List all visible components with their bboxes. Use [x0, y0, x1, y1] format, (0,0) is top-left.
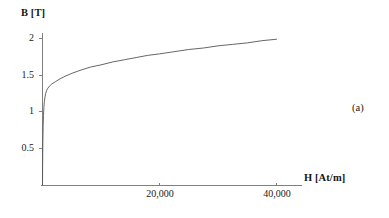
- panel-label: (a): [352, 102, 364, 113]
- y-axis-label: B [T]: [21, 7, 45, 18]
- y-tick-label-1p5: 1.5: [8, 69, 34, 80]
- y-tick-label-0p5: 0.5: [8, 142, 34, 153]
- y-tick-label-1: 1: [8, 105, 34, 116]
- figure-container: B [T] H [At/m] 2 1.5 1 0.5 20,000 40,000…: [0, 0, 389, 218]
- y-tick-label-2: 2: [8, 32, 34, 43]
- x-axis-label: H [At/m]: [304, 172, 345, 183]
- x-tick-label-40000: 40,000: [263, 188, 291, 199]
- bh-curve-plot: [0, 0, 389, 218]
- data-series-line: [43, 39, 277, 185]
- x-tick-label-20000: 20,000: [146, 188, 174, 199]
